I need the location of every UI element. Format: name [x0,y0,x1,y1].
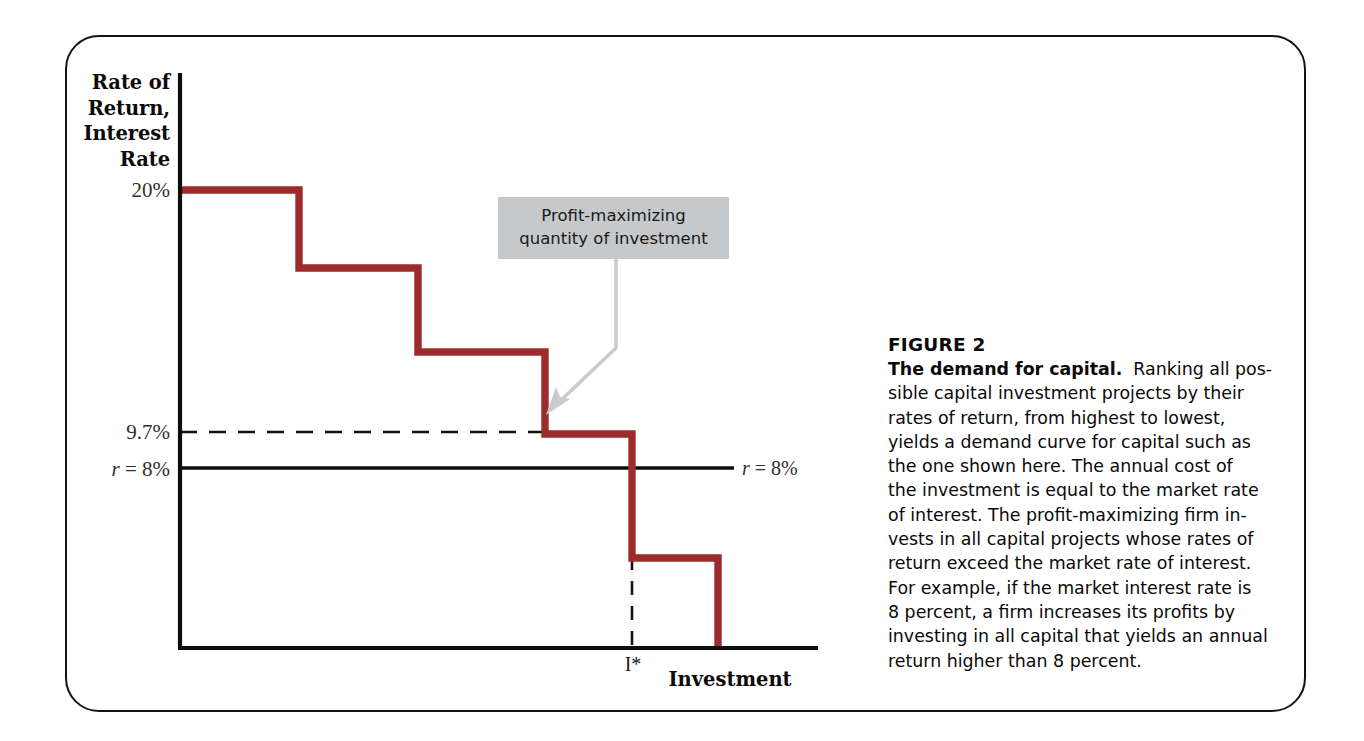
caption-line-7: of interest. The profit-maximizing firm … [888,503,1212,527]
y-tick-label-20-percent: 20% [40,178,170,203]
caption-line-3: rates of return, from highest to lowest, [888,406,1212,430]
figure-caption-title: The demand for capital. [888,359,1122,379]
figure-root: Rate of Return, Interest Rate Investment… [0,0,1364,741]
caption-line-4: yields a demand curve for capital such a… [888,430,1212,454]
market-rate-line-label: r = 8% [742,457,798,480]
x-tick-label-i-star: I* [608,653,658,676]
y-axis-title-line-1: Rate of [20,70,170,96]
callout-line-2: quantity of investment [498,227,729,250]
figure-caption: FIGURE 2 The demand for capital. Ranking… [888,333,1212,673]
y-axis-title: Rate of Return, Interest Rate [20,70,170,172]
x-axis-title: Investment [640,668,820,691]
caption-line-10: For example, if the market interest rate… [888,576,1212,600]
y-axis-title-line-2: Return, [20,96,170,122]
y-tick-label-r-symbol: r [111,457,119,481]
market-rate-label-r-symbol: r [742,457,750,479]
caption-line-9: return exceed the market rate of interes… [888,551,1212,575]
caption-line-1: Ranking all pos- [1133,359,1272,379]
caption-line-6: the investment is equal to the market ra… [888,478,1212,502]
y-tick-label-9-7-percent: 9.7% [40,420,170,445]
callout-box: Profit-maximizing quantity of investment [498,197,729,259]
y-axis-title-line-4: Rate [20,147,170,173]
figure-number: FIGURE 2 [888,333,1212,356]
caption-line-8: vests in all capital projects whose rate… [888,527,1212,551]
caption-line-2: sible capital investment projects by the… [888,381,1212,405]
y-axis-title-line-3: Interest [20,121,170,147]
market-rate-label-value: = 8% [750,457,798,479]
caption-line-11: 8 percent, a firm increases its profits … [888,600,1212,624]
y-tick-label-r-value: = 8% [120,457,170,481]
caption-line-13: return higher than 8 percent. [888,649,1212,673]
y-tick-label-r-equals-8-percent: r = 8% [30,457,170,482]
figure-caption-body: The demand for capital. Ranking all pos-… [888,357,1212,673]
caption-line-12: investing in all capital that yields an … [888,624,1212,648]
caption-line-5: the one shown here. The annual cost of [888,454,1212,478]
callout-line-1: Profit-maximizing [498,204,729,227]
